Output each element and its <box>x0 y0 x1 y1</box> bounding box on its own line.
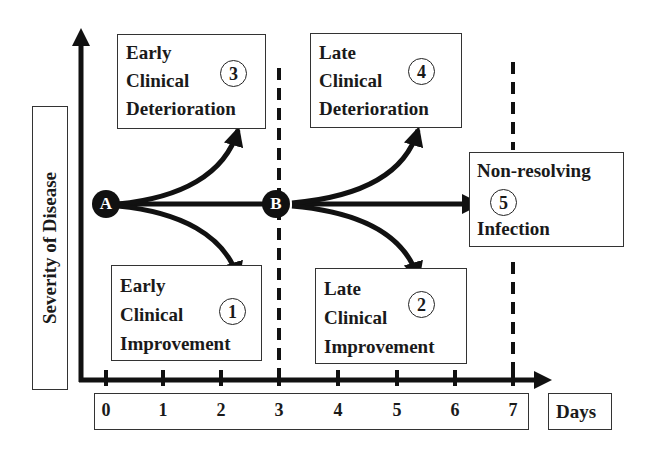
box-line: Clinical <box>319 67 382 95</box>
outcome-number-4: 4 <box>408 58 435 85</box>
box-line: Early <box>126 39 171 67</box>
node-a: A <box>92 190 120 218</box>
outcome-number-1: 1 <box>219 298 246 325</box>
outcome-number-3: 3 <box>220 60 247 87</box>
box-line: Late <box>319 39 356 67</box>
box-line: Early <box>120 272 165 300</box>
x-tick-7: 7 <box>503 400 523 421</box>
x-tick-6: 6 <box>445 400 465 421</box>
x-tick-2: 2 <box>211 400 231 421</box>
x-axis-arrowhead-icon <box>534 371 552 389</box>
node-b: B <box>262 190 290 218</box>
outcome-box-early-deterioration: Early Clinical Deterioration 3 <box>117 34 266 129</box>
y-axis-label-text: Severity of Disease <box>39 172 61 324</box>
box-line: Clinical <box>126 67 189 95</box>
box-line: Improvement <box>120 330 230 358</box>
box-line: Non-resolving <box>477 157 591 185</box>
x-tick-0: 0 <box>96 400 116 421</box>
box-line: Deterioration <box>319 95 429 123</box>
box-line: Clinical <box>120 301 183 329</box>
x-tick-1: 1 <box>153 400 173 421</box>
outcome-number-2: 2 <box>408 291 435 318</box>
box-line: Deterioration <box>126 95 236 123</box>
outcome-box-late-improvement: Late Clinical Improvement 2 <box>315 268 467 364</box>
box-line: Late <box>324 275 361 303</box>
outcome-box-non-resolving-infection: Non-resolving 5 Infection <box>469 152 624 247</box>
outcome-number-5: 5 <box>490 189 517 216</box>
outcome-box-early-improvement: Early Clinical Improvement 1 <box>111 265 262 361</box>
x-tick-4: 4 <box>328 400 348 421</box>
outcome-box-late-deterioration: Late Clinical Deterioration 4 <box>310 33 462 128</box>
x-tick-3: 3 <box>269 400 289 421</box>
box-line: Improvement <box>324 333 434 361</box>
y-axis-label: Severity of Disease <box>32 106 68 390</box>
x-axis-label: Days <box>556 398 596 426</box>
y-axis-arrowhead-icon <box>72 28 90 46</box>
x-tick-5: 5 <box>387 400 407 421</box>
box-line: Infection <box>477 215 550 243</box>
x-axis-label-box: Days <box>548 393 612 430</box>
box-line: Clinical <box>324 304 387 332</box>
